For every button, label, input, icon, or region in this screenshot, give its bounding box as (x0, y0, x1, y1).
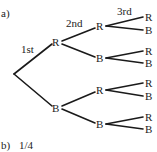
node-2-B-lower: B (96, 118, 103, 130)
edge-2B-3B-a (106, 58, 143, 63)
edge-2R-3R-b (106, 83, 143, 90)
edge-root-1B (14, 74, 52, 106)
edge-1R-2B (62, 44, 95, 57)
edge-2B-3R-b (106, 117, 143, 124)
node-2-B-upper: B (96, 52, 103, 64)
leaf-3-4: B (145, 57, 152, 69)
leaf-3-6: B (145, 90, 152, 102)
part-b-label: b) (1, 139, 11, 152)
leaf-3-5: R (145, 77, 153, 89)
node-2-R-lower: R (96, 84, 104, 96)
edge-1B-2R (62, 92, 95, 106)
edge-2B-3B-b (106, 124, 143, 129)
node-2-R-upper: R (96, 20, 104, 32)
leaf-3-8: B (145, 123, 152, 135)
leaf-3-7: R (145, 111, 153, 123)
stage-label-1st: 1st (21, 43, 34, 55)
leaf-3-2: B (145, 24, 152, 36)
leaf-3-1: R (145, 11, 153, 23)
edge-2B-3R-a (106, 51, 143, 58)
part-a-label: a) (1, 7, 10, 20)
tree-diagram: a) 1st 2nd 3rd R B R B R B R B R B R B R… (0, 0, 157, 152)
stage-label-3rd: 3rd (117, 5, 132, 17)
edge-2R-3B-a (106, 26, 143, 30)
part-b-answer: 1/4 (19, 139, 34, 151)
stage-label-2nd: 2nd (66, 17, 83, 29)
edge-1B-2B (62, 109, 95, 123)
node-1-R: R (52, 36, 60, 48)
node-1-B: B (52, 102, 59, 114)
leaf-3-3: R (145, 45, 153, 57)
edge-1R-2R (62, 28, 95, 41)
edge-2R-3B-b (106, 90, 143, 96)
edge-2R-3R-a (106, 17, 143, 26)
